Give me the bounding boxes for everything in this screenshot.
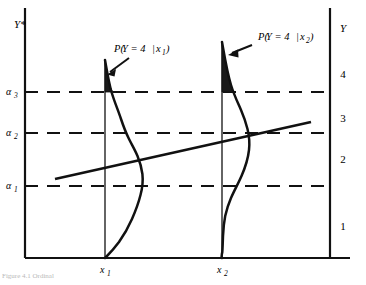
threshold-alpha3-base: α	[6, 86, 12, 97]
annotation-prob-x2-bar: |	[296, 31, 299, 42]
annotation-prob-x1-expr: Y = 4	[122, 43, 146, 54]
annotation-prob-x1-close: )	[165, 43, 170, 55]
dist-x1-density-curve	[105, 60, 143, 258]
annotation-prob-x1: P( Y = 4 | x 1 )	[113, 43, 170, 57]
figure-caption: Figure 4.1 Ordinal	[2, 272, 332, 281]
annotation-prob-x2-close: )	[309, 31, 314, 43]
threshold-label-alpha1: α 1	[6, 180, 18, 194]
right-axis-label: Y	[340, 22, 348, 34]
right-axis-tick-3: 3	[340, 112, 346, 124]
dist-x1	[105, 60, 143, 258]
threshold-label-alpha2: α 2	[6, 127, 18, 141]
conditional-baselines	[105, 42, 222, 258]
annotation-prob-x2-cond: x	[299, 31, 305, 42]
threshold-alpha2-sub: 2	[14, 132, 18, 141]
left-axis-label: Y*	[14, 18, 26, 30]
right-axis-tick-4: 4	[340, 68, 346, 80]
right-axis-tick-2: 2	[340, 153, 346, 165]
annotation-prob-x2: P( Y = 4 | x 2 )	[257, 31, 314, 45]
arrow-to-dist-x2	[228, 45, 252, 58]
threshold-alpha1-base: α	[6, 180, 12, 191]
annotation-prob-x2-expr: Y = 4	[266, 31, 290, 42]
threshold-alpha2-base: α	[6, 127, 12, 138]
threshold-lines	[25, 92, 330, 186]
threshold-alpha1-sub: 1	[14, 185, 18, 194]
annotation-prob-x1-cond: x	[155, 43, 161, 54]
regression-line	[55, 122, 311, 179]
threshold-alpha3-sub: 3	[13, 91, 18, 100]
threshold-label-alpha3: α 3	[6, 86, 18, 100]
latent-variable-threshold-diagram: Y* α 3 α 2 α 1 Y 4 3 2 1 x 1 x 2 P(	[0, 0, 366, 285]
arrow-to-dist-x1	[107, 58, 129, 77]
annotation-prob-x1-bar: |	[152, 43, 155, 54]
dist-x2	[222, 42, 250, 258]
right-axis-tick-1: 1	[340, 220, 346, 232]
